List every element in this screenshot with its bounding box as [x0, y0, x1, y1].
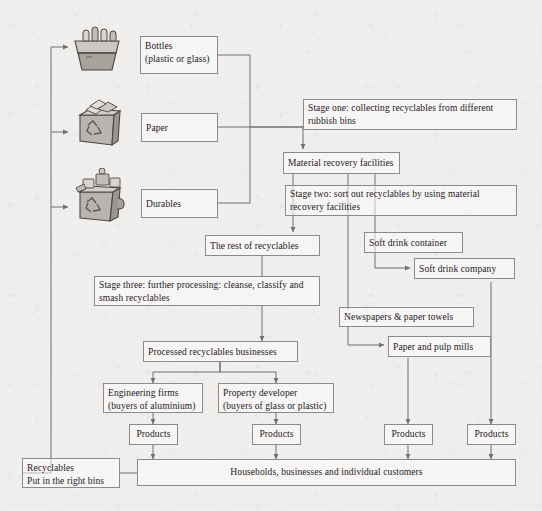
node-stage-two-label: Stage two: sort out recyclables by using… — [290, 188, 512, 213]
node-products-3[interactable]: Products — [384, 424, 433, 445]
node-products-4-label: Products — [474, 428, 508, 441]
node-newspapers-label: Newspapers & paper towels — [344, 311, 453, 324]
node-stage-three-label: Stage three: further processing: cleanse… — [99, 279, 315, 304]
node-durables-label: Durables — [146, 198, 181, 211]
node-rest-of-recyclables[interactable]: The rest of recyclables — [205, 235, 320, 256]
node-bottles-line2: (plastic or glass) — [145, 53, 213, 66]
node-paper-mills[interactable]: Paper and pulp mills — [388, 336, 491, 357]
node-soft-drink-company[interactable]: Soft drink company — [414, 258, 515, 279]
node-products-3-label: Products — [391, 428, 425, 441]
node-property-developer-line1: Property developer — [223, 387, 329, 400]
node-engineering-firms-line2: (buyers of aluminium) — [108, 400, 198, 413]
node-paper-label: Paper — [146, 122, 168, 135]
node-property-developer[interactable]: Property developer (buyers of glass or p… — [218, 383, 334, 413]
node-stage-three[interactable]: Stage three: further processing: cleanse… — [94, 276, 320, 306]
node-recyclables-line1: Recyclables — [27, 462, 115, 475]
node-rest-of-recyclables-label: The rest of recyclables — [210, 240, 299, 253]
paper-bin-icon — [68, 97, 128, 149]
node-engineering-firms-line1: Engineering firms — [108, 387, 198, 400]
node-processed-businesses-label: Processed recyclables businesses — [148, 346, 277, 359]
node-stage-one[interactable]: Stage one: collecting recyclables from d… — [303, 99, 517, 130]
node-stage-two[interactable]: Stage two: sort out recyclables by using… — [285, 185, 517, 216]
node-products-2-label: Products — [259, 428, 293, 441]
node-households[interactable]: Households, businesses and individual cu… — [137, 459, 516, 486]
node-soft-drink-container[interactable]: Soft drink container — [364, 232, 463, 253]
node-bottles-line1: Bottles — [145, 40, 213, 53]
node-material-recovery[interactable]: Material recovery facilities — [283, 152, 400, 174]
node-bottles[interactable]: Bottles (plastic or glass) — [140, 36, 218, 74]
bottles-bin-icon — [66, 26, 128, 74]
node-households-label: Households, businesses and individual cu… — [230, 466, 422, 479]
flowchart-canvas: Bottles (plastic or glass) Paper Durable… — [0, 0, 542, 511]
node-material-recovery-label: Material recovery facilities — [288, 157, 394, 170]
node-recyclables-bins[interactable]: Recyclables Put in the right bins — [22, 458, 120, 488]
node-stage-one-label: Stage one: collecting recyclables from d… — [308, 102, 512, 127]
node-paper[interactable]: Paper — [141, 113, 218, 142]
node-products-4[interactable]: Products — [467, 424, 516, 445]
node-soft-drink-company-label: Soft drink company — [419, 263, 496, 276]
node-durables[interactable]: Durables — [141, 189, 218, 218]
node-products-1-label: Products — [136, 428, 170, 441]
node-processed-businesses[interactable]: Processed recyclables businesses — [143, 341, 298, 362]
node-property-developer-line2: (buyers of glass or plastic) — [223, 400, 329, 413]
node-engineering-firms[interactable]: Engineering firms (buyers of aluminium) — [103, 383, 203, 413]
node-paper-mills-label: Paper and pulp mills — [393, 341, 473, 354]
node-soft-drink-container-label: Soft drink container — [369, 237, 447, 250]
node-newspapers[interactable]: Newspapers & paper towels — [339, 307, 474, 327]
node-recyclables-line2: Put in the right bins — [27, 475, 115, 488]
node-products-2[interactable]: Products — [252, 424, 301, 445]
node-products-1[interactable]: Products — [129, 424, 178, 445]
durables-bin-icon — [66, 168, 132, 224]
